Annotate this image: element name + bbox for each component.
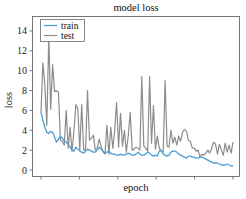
x-axis-ticks (41, 177, 233, 180)
y-axis-label: loss (3, 92, 14, 108)
chart-title: model loss (113, 2, 158, 13)
legend: train test (41, 20, 85, 42)
loss-chart: model loss 02468101214 train test epoch … (0, 0, 246, 199)
y-tick-label: 8 (22, 85, 27, 96)
x-axis-label: epoch (123, 182, 149, 193)
legend-test-label: test (61, 31, 75, 41)
legend-train-label: train (61, 21, 79, 31)
y-tick-label: 12 (17, 45, 27, 56)
y-tick-label: 4 (22, 125, 27, 136)
y-axis-ticks: 02468101214 (17, 25, 33, 175)
y-tick-label: 6 (22, 105, 27, 116)
y-tick-label: 2 (22, 145, 27, 156)
y-tick-label: 10 (17, 65, 27, 76)
train-loss-line (41, 112, 233, 166)
test-loss-line (41, 37, 233, 157)
y-tick-label: 0 (22, 165, 27, 176)
y-tick-label: 14 (17, 25, 27, 36)
